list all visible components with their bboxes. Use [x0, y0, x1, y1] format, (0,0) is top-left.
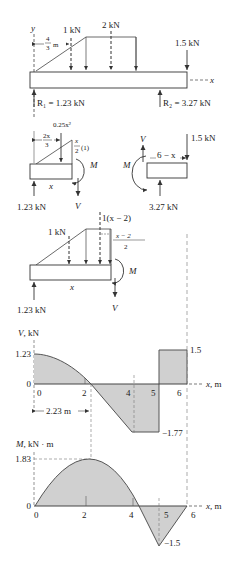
moment-ytick-top: 1.83	[15, 454, 31, 464]
y-axis-label: y	[30, 23, 35, 33]
fbd-left-height-num: x	[74, 137, 79, 145]
shear-xtick: 6	[177, 388, 182, 398]
fbd-mid-dim-num: x − 2	[115, 232, 131, 240]
shear-xtick: 4	[126, 388, 131, 398]
fbd-left-dim-den: 3	[45, 141, 49, 149]
shear-xlabel: x, m	[205, 379, 222, 389]
beam-analysis-diagram: y 4 3 m 1 kN 2 kN 1.5 kN x R₁ = 1.23 kN …	[0, 0, 234, 566]
load-1.5kn-label: 1.5 kN	[175, 38, 200, 48]
fbd-left-shear-label: V	[75, 201, 82, 211]
fbd-right-moment-label: M	[122, 160, 131, 170]
moment-ytick-zero: 0	[27, 501, 32, 511]
fbd-right-load-label: 1.5 kN	[191, 133, 216, 143]
fbd-right-shear-label: V	[140, 134, 147, 144]
x-axis-label: x	[209, 75, 214, 85]
free-body-left: 0.25x² 2x 3 x 2 (1) x M V 1.23 kN	[17, 121, 98, 212]
fbd-mid-moment-label: M	[128, 266, 137, 276]
free-body-right: V M 6 − x 1.5 kN 3.27 kN	[122, 133, 216, 212]
shear-xtick: 0	[37, 388, 42, 398]
moment-xtick: 0	[34, 510, 39, 520]
free-body-middle: 1(x − 2) 1 kN x − 2 2 x M V 1.23 kN	[17, 212, 145, 315]
fbd-left-length: x	[48, 181, 53, 191]
dim-denominator: 3	[46, 44, 50, 52]
reaction-r1-label: R₁ = 1.23 kN	[37, 98, 85, 108]
shear-ytick-zero: 0	[27, 379, 32, 389]
load-1kn-label: 1 kN	[63, 25, 81, 35]
moment-diagram: M, kN · m x, m 1.83 0 0 2 4 5 6 −1.5	[15, 439, 222, 548]
beam-body	[30, 72, 187, 88]
moment-xtick: 2	[82, 510, 87, 520]
dim-unit: m	[53, 41, 59, 49]
dim-numerator: 4	[46, 35, 50, 43]
shear-ytick-top: 1.23	[15, 349, 31, 359]
moment-xtick: 6	[191, 510, 196, 520]
fbd-left-height-suffix: (1)	[81, 144, 90, 152]
fbd-left-moment-label: M	[89, 160, 98, 170]
moment-min-label: −1.5	[164, 538, 181, 548]
load-2kn-label: 2 kN	[102, 20, 120, 30]
reaction-r2-label: R₂ = 3.27 kN	[163, 98, 211, 108]
fbd-mid-shear-label: V	[112, 303, 119, 313]
fbd-right-reaction-label: 3.27 kN	[149, 202, 179, 212]
shear-xtick: 5	[151, 388, 156, 398]
shear-xtick: 2	[82, 388, 87, 398]
fbd-left-dim-num: 2x	[43, 132, 51, 140]
fbd-mid-load-1-label: 1 kN	[48, 227, 66, 237]
fbd-mid-length: x	[69, 282, 74, 292]
fbd-right-length: 6 − x	[157, 150, 176, 160]
moment-ylabel: M, kN · m	[15, 439, 54, 449]
moment-arrow-right	[132, 156, 147, 190]
moment-xtick: 4	[129, 510, 134, 520]
shear-ylabel: V, kN	[18, 328, 40, 338]
fbd-mid-dim-den: 2	[124, 243, 128, 251]
fbd-left-height-den: 2	[75, 147, 79, 155]
moment-xlabel: x, m	[205, 501, 222, 511]
shear-max-label: 1.5	[190, 345, 202, 355]
fbd-mid-load-top-label: 1(x − 2)	[102, 213, 131, 223]
fbd-mid-reaction-label: 1.23 kN	[17, 305, 47, 315]
fbd-left-load-label: 0.25x²	[53, 121, 71, 129]
shear-min-label: −1.77	[162, 428, 183, 438]
moment-xtick: 5	[164, 510, 169, 520]
fbd-left-reaction-label: 1.23 kN	[17, 202, 47, 212]
main-beam-figure: y 4 3 m 1 kN 2 kN 1.5 kN x R₁ = 1.23 kN …	[30, 20, 214, 118]
shear-zero-crossing-dim: 2.23 m	[46, 406, 71, 416]
